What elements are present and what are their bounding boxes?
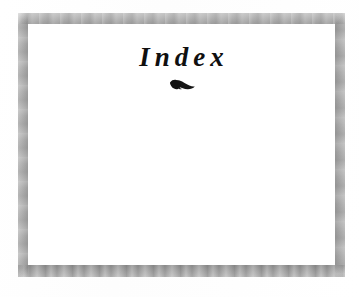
page-title: Index [28,44,335,71]
page-content-area: Index [28,24,335,265]
book-page: Index [0,0,359,297]
leaf-fleuron-icon [28,79,335,92]
